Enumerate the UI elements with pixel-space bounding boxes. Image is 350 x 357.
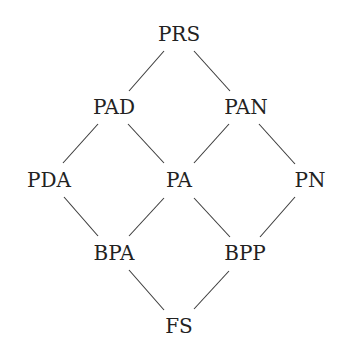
edge-bpa-fs bbox=[129, 270, 164, 310]
node-pad: PAD bbox=[93, 95, 135, 119]
edge-bpp-fs bbox=[194, 271, 229, 309]
node-fs: FS bbox=[165, 314, 193, 338]
edge-prs-pad bbox=[129, 51, 164, 91]
edge-pan-pn bbox=[259, 124, 295, 164]
edge-pan-pa bbox=[194, 124, 229, 163]
edge-pad-pda bbox=[63, 124, 98, 163]
edge-pa-bpa bbox=[129, 198, 164, 236]
lattice-diagram: PRS PAD PAN PDA PA PN BPA BPP FS bbox=[0, 0, 350, 357]
node-group: PRS PAD PAN PDA PA PN BPA BPP FS bbox=[27, 22, 325, 338]
node-bpa: BPA bbox=[94, 241, 135, 265]
node-prs: PRS bbox=[158, 22, 200, 46]
edge-pn-bpp bbox=[260, 197, 295, 237]
edge-pa-bpp bbox=[194, 198, 230, 237]
node-pda: PDA bbox=[27, 168, 71, 192]
node-pan: PAN bbox=[224, 95, 268, 119]
node-pn: PN bbox=[295, 168, 326, 192]
edge-prs-pan bbox=[194, 51, 230, 91]
edge-pad-pa bbox=[128, 124, 164, 163]
node-bpp: BPP bbox=[224, 241, 266, 265]
node-pa: PA bbox=[166, 168, 193, 192]
edge-pda-bpa bbox=[64, 197, 98, 236]
